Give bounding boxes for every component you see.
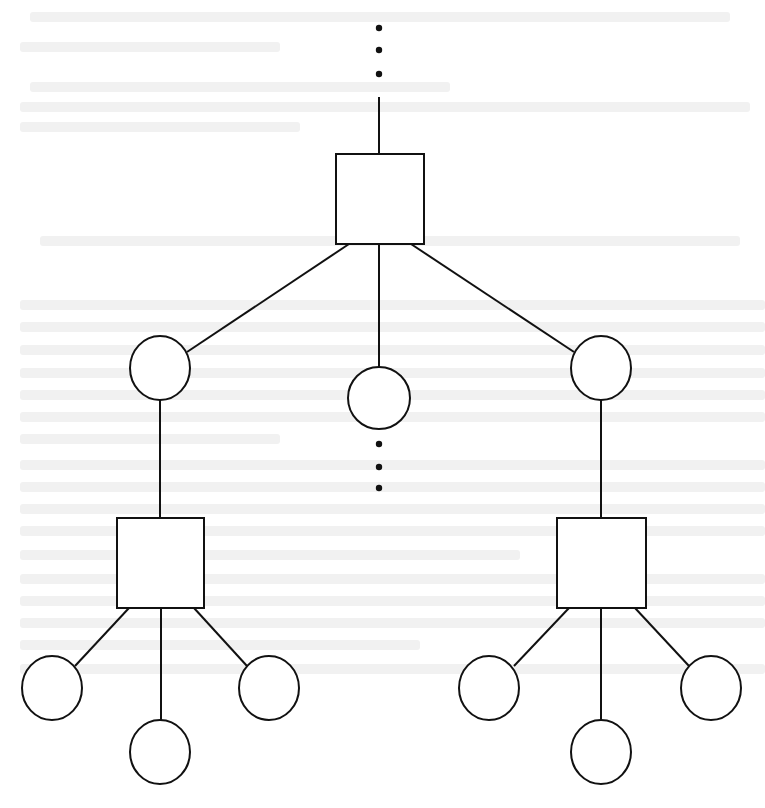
chance-node-left-circle <box>130 336 190 400</box>
edge-right-square-to-child-1 <box>514 608 569 666</box>
chance-node-left-child-3 <box>239 656 299 720</box>
edge-root-to-right <box>411 244 574 352</box>
chance-node-middle-circle <box>348 367 410 429</box>
chance-node-left-child-1 <box>22 656 82 720</box>
ellipsis-dot-middle-ellipsis <box>376 485 382 491</box>
edge-root-to-left <box>187 244 349 352</box>
edge-left-square-to-child-1 <box>75 608 129 666</box>
decision-node-root-square <box>336 154 424 244</box>
ellipsis-dot-top-ellipsis <box>376 25 382 31</box>
edge-right-square-to-child-3 <box>635 608 689 666</box>
decision-node-left-square <box>117 518 204 608</box>
ellipsis-dot-middle-ellipsis <box>376 441 382 447</box>
chance-node-right-child-1 <box>459 656 519 720</box>
ellipsis-dot-top-ellipsis <box>376 71 382 77</box>
ellipsis-dot-top-ellipsis <box>376 47 382 53</box>
chance-node-right-circle <box>571 336 631 400</box>
chance-node-right-child-3 <box>681 656 741 720</box>
chance-node-right-child-2 <box>571 720 631 784</box>
edge-left-square-to-child-3 <box>194 608 247 666</box>
decision-node-right-square <box>557 518 646 608</box>
ellipsis-dot-middle-ellipsis <box>376 464 382 470</box>
chance-node-left-child-2 <box>130 720 190 784</box>
tree-diagram <box>0 0 765 808</box>
